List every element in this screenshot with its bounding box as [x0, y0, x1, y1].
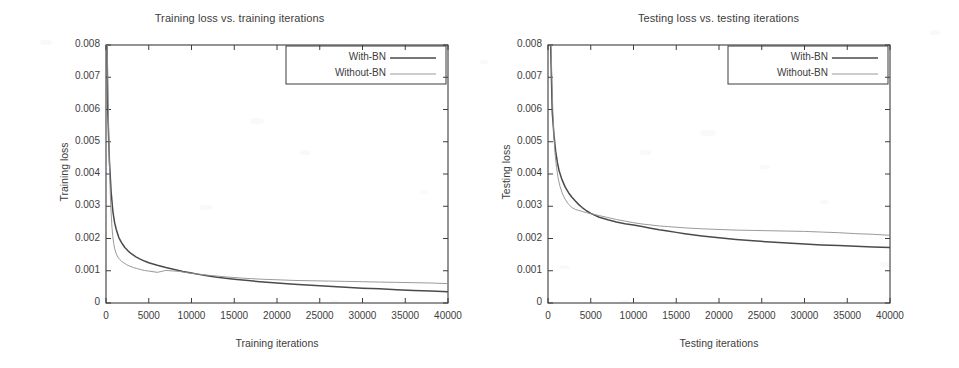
- y-axis-tick-label: 0.005: [48, 135, 100, 146]
- y-axis-tick-label: 0.002: [490, 232, 542, 243]
- y-axis-tick-label: 0.005: [490, 135, 542, 146]
- y-axis-tick-label: 0: [490, 296, 542, 307]
- y-axis-tick-label: 0.003: [48, 199, 100, 210]
- y-axis-tick-label: 0.007: [48, 70, 100, 81]
- y-axis-tick-label: 0.008: [490, 38, 542, 49]
- x-axis-tick-label: 40000: [860, 310, 920, 321]
- y-axis-tick-label: 0.001: [48, 264, 100, 275]
- y-axis-tick-label: 0: [48, 296, 100, 307]
- y-axis-tick-label: 0.003: [490, 199, 542, 210]
- x-axis-title: Training iterations: [106, 337, 448, 349]
- legend-box: [728, 46, 888, 84]
- y-axis-tick-label: 0.006: [490, 103, 542, 114]
- figure-two-panel-loss-charts: Training loss vs. training iterations Wi…: [0, 0, 959, 368]
- y-axis-tick-label: 0.006: [48, 103, 100, 114]
- y-axis-tick-label: 0.001: [490, 264, 542, 275]
- legend-box: [286, 46, 446, 84]
- series-line-without-bn: [550, 25, 890, 235]
- plot-area-wrapper: With-BNWithout-BN00.0010.0020.0030.0040.…: [479, 0, 958, 368]
- y-axis-tick-label: 0.004: [48, 167, 100, 178]
- chart-panel-training-loss: Training loss vs. training iterations Wi…: [0, 0, 479, 368]
- chart-panel-testing-loss: Testing loss vs. testing iterations With…: [479, 0, 958, 368]
- y-axis-title: Testing loss: [500, 43, 512, 301]
- y-axis-tick-label: 0.004: [490, 167, 542, 178]
- y-axis-tick-label: 0.007: [490, 70, 542, 81]
- y-axis-tick-label: 0.008: [48, 38, 100, 49]
- x-axis-title: Testing iterations: [548, 337, 890, 349]
- x-axis-tick-label: 40000: [418, 310, 478, 321]
- y-axis-tick-label: 0.002: [48, 232, 100, 243]
- series-line-without-bn: [107, 25, 448, 284]
- y-axis-title: Training loss: [58, 43, 70, 301]
- plot-area-wrapper: With-BNWithout-BN00.0010.0020.0030.0040.…: [0, 0, 479, 368]
- series-line-with-bn: [107, 25, 448, 292]
